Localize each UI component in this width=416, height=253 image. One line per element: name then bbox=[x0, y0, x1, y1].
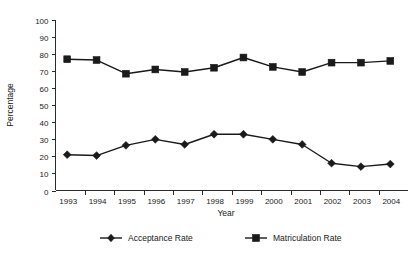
y-axis-title: Percentage bbox=[5, 83, 15, 127]
x-tick-label: 1994 bbox=[89, 197, 107, 206]
data-point-marker bbox=[328, 159, 336, 167]
series-plot-area bbox=[63, 54, 394, 170]
data-point-marker bbox=[299, 69, 306, 76]
data-point-marker bbox=[64, 56, 71, 63]
y-tick-label: 100 bbox=[35, 17, 49, 26]
x-tick-label: 1996 bbox=[147, 197, 165, 206]
legend-label-acceptance: Acceptance Rate bbox=[128, 233, 193, 243]
y-tick-label: 90 bbox=[40, 34, 49, 43]
x-tick-label: 2002 bbox=[324, 197, 342, 206]
data-point-marker bbox=[298, 141, 306, 149]
data-point-marker bbox=[93, 152, 101, 160]
data-point-marker bbox=[240, 54, 247, 61]
x-axis-tick-labels: 1993199419951996199719981999200020012002… bbox=[59, 197, 400, 206]
line-chart-figure: Percentage 0102030405060708090100 199319… bbox=[0, 0, 416, 253]
x-tick-label: 1993 bbox=[59, 197, 77, 206]
x-tick-label: 2001 bbox=[294, 197, 312, 206]
data-point-marker bbox=[240, 130, 248, 138]
data-point-marker bbox=[269, 135, 277, 143]
series-matriculation-rate bbox=[64, 54, 394, 77]
y-tick-label: 0 bbox=[44, 188, 49, 197]
x-axis: 1993199419951996199719981999200020012002… bbox=[56, 191, 409, 219]
data-point-marker bbox=[210, 130, 218, 138]
legend-label-matriculation: Matriculation Rate bbox=[273, 233, 342, 243]
x-axis-title: Year bbox=[217, 208, 234, 218]
data-point-marker bbox=[211, 64, 218, 71]
data-point-marker bbox=[122, 141, 130, 149]
series-line-matriculation bbox=[67, 58, 390, 74]
x-tick-label: 1999 bbox=[236, 197, 254, 206]
x-tick-label: 2004 bbox=[382, 197, 400, 206]
x-tick-label: 1998 bbox=[206, 197, 224, 206]
data-point-marker bbox=[151, 135, 159, 143]
data-point-marker bbox=[123, 70, 130, 77]
legend-item-acceptance-rate: Acceptance Rate bbox=[100, 233, 193, 243]
y-tick-label: 10 bbox=[40, 170, 49, 179]
y-axis-ticks bbox=[52, 21, 56, 192]
x-tick-label: 1995 bbox=[118, 197, 136, 206]
y-tick-label: 20 bbox=[40, 153, 49, 162]
data-point-marker bbox=[181, 69, 188, 76]
series-line-acceptance bbox=[67, 134, 390, 166]
data-point-marker bbox=[387, 58, 394, 65]
y-tick-label: 60 bbox=[40, 85, 49, 94]
x-tick-label: 1997 bbox=[177, 197, 195, 206]
data-point-marker bbox=[93, 57, 100, 64]
y-tick-label: 80 bbox=[40, 51, 49, 60]
data-point-marker bbox=[358, 59, 365, 66]
data-point-marker bbox=[269, 63, 276, 70]
chart-legend: Acceptance Rate Matriculation Rate bbox=[100, 233, 342, 243]
y-axis: 0102030405060708090100 bbox=[35, 17, 55, 197]
y-axis-title-group: Percentage bbox=[5, 83, 15, 127]
series-acceptance-rate bbox=[63, 130, 394, 170]
square-marker-icon bbox=[253, 235, 260, 242]
legend-item-matriculation-rate: Matriculation Rate bbox=[245, 233, 342, 243]
x-axis-ticks bbox=[86, 191, 380, 195]
data-point-marker bbox=[328, 59, 335, 66]
series-markers-matriculation bbox=[64, 54, 394, 77]
data-point-marker bbox=[181, 141, 189, 149]
data-point-marker bbox=[386, 160, 394, 168]
data-point-marker bbox=[152, 66, 159, 73]
y-tick-label: 30 bbox=[40, 136, 49, 145]
diamond-marker-icon bbox=[108, 234, 115, 242]
x-tick-label: 2000 bbox=[265, 197, 283, 206]
y-axis-tick-labels: 0102030405060708090100 bbox=[35, 17, 49, 197]
x-tick-label: 2003 bbox=[353, 197, 371, 206]
y-tick-label: 40 bbox=[40, 119, 49, 128]
y-tick-label: 70 bbox=[40, 68, 49, 77]
data-point-marker bbox=[357, 163, 365, 171]
chart-canvas: Percentage 0102030405060708090100 199319… bbox=[0, 0, 416, 253]
data-point-marker bbox=[63, 151, 71, 159]
y-tick-label: 50 bbox=[40, 102, 49, 111]
